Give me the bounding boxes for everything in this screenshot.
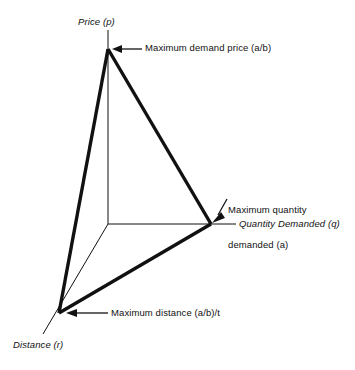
annotation-max-quantity-line2: demanded (a) xyxy=(228,239,307,251)
max-distance-arrowhead xyxy=(66,309,77,317)
demand-cone-figure: Price (p) Quantity Demanded (q) Distance… xyxy=(0,0,355,370)
annotation-max-quantity-line1: Maximum quantity xyxy=(228,204,307,216)
max-demand-price-arrowhead xyxy=(112,45,122,53)
distance-axis-line xyxy=(43,224,108,334)
max-quantity-leader xyxy=(218,199,227,215)
demand-cone-edges xyxy=(59,49,211,313)
axis-label-distance: Distance (r) xyxy=(13,339,63,351)
axis-lines xyxy=(43,30,236,334)
edge-price-to-quantity xyxy=(108,49,211,224)
edge-price-to-distance xyxy=(59,49,108,313)
annotation-arrows xyxy=(66,45,227,317)
annotation-label-max-demand-price: Maximum demand price (a/b) xyxy=(145,42,271,54)
axis-label-price: Price (p) xyxy=(78,16,115,28)
annotation-label-max-distance: Maximum distance (a/b)/t xyxy=(111,307,220,319)
annotation-label-max-quantity-demanded: Maximum quantity demanded (a) xyxy=(228,181,307,273)
